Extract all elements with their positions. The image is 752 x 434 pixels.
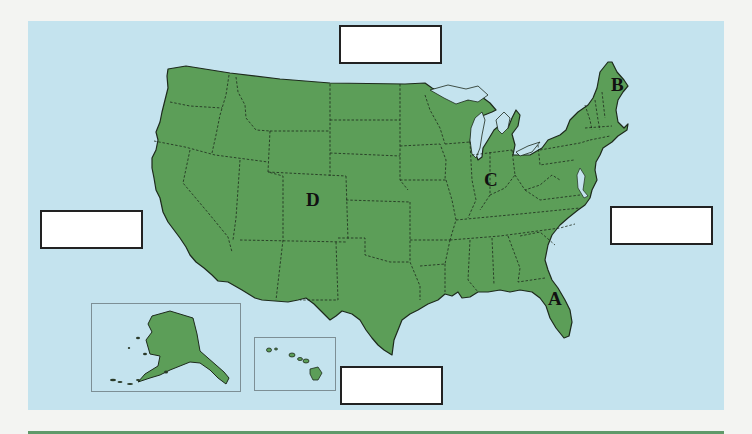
- label-c: C: [484, 170, 498, 189]
- answer-box-left[interactable]: [40, 210, 143, 249]
- label-b: B: [611, 75, 624, 94]
- answer-box-bottom[interactable]: [340, 366, 443, 405]
- answer-box-top[interactable]: [339, 25, 442, 64]
- hawaii-inset-frame: [254, 337, 336, 391]
- label-a: A: [548, 289, 562, 308]
- answer-box-right[interactable]: [610, 206, 713, 245]
- label-d: D: [306, 190, 320, 209]
- alaska-inset-frame: [91, 303, 241, 392]
